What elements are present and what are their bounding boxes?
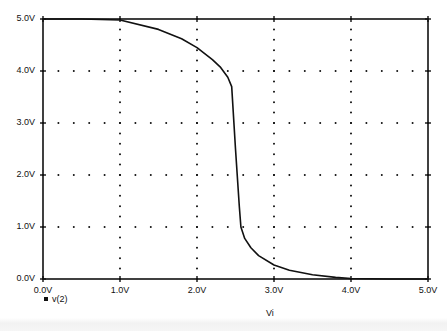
x-tick-label: 2.0V xyxy=(177,285,217,295)
x-axis-title: Vi xyxy=(266,308,274,318)
y-tick-label: 3.0V xyxy=(1,117,35,127)
transfer-curve-chart xyxy=(0,0,447,331)
y-tick-label: 5.0V xyxy=(1,13,35,23)
legend-label: v(2) xyxy=(52,294,68,304)
y-tick-label: 4.0V xyxy=(1,65,35,75)
legend: v(2) xyxy=(44,294,68,304)
x-tick-label: 1.0V xyxy=(100,285,140,295)
y-tick-label: 1.0V xyxy=(1,221,35,231)
x-tick-label: 5.0V xyxy=(408,285,447,295)
y-tick-label: 0.0V xyxy=(1,273,35,283)
x-tick-label: 3.0V xyxy=(254,285,294,295)
series-v2-line xyxy=(43,19,428,279)
scan-artifact-band xyxy=(0,318,447,331)
y-tick-label: 2.0V xyxy=(1,169,35,179)
square-marker-icon xyxy=(44,297,48,301)
x-tick-label: 4.0V xyxy=(331,285,371,295)
